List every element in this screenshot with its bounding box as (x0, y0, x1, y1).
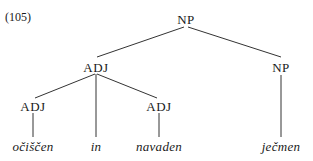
leaf-navaden: navaden (136, 140, 182, 153)
branch-adj-adjleft (35, 74, 95, 98)
node-np-right: NP (272, 61, 290, 74)
syntax-tree-diagram: (105) NP ADJ NP ADJ ADJ očiščen in navad… (0, 0, 313, 161)
node-root-np: NP (177, 13, 195, 26)
node-adj-right: ADJ (146, 100, 171, 113)
tree-branches (0, 0, 313, 161)
branch-np-adj (97, 27, 184, 57)
branch-adj-adjright (97, 74, 157, 98)
branch-np-np (188, 27, 281, 57)
node-adj-phrase: ADJ (83, 61, 108, 74)
node-adj-left: ADJ (20, 100, 45, 113)
leaf-in: in (91, 140, 102, 153)
leaf-ociscen: očiščen (12, 140, 53, 153)
leaf-jecmen: ječmen (262, 140, 301, 153)
